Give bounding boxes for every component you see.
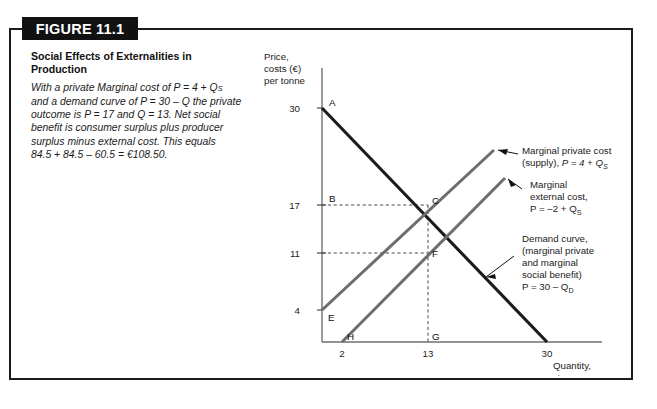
annotation-mpc-line1: Marginal private cost	[522, 145, 612, 156]
point-label-A: A	[329, 97, 336, 108]
y-tick-label-11: 11	[290, 248, 300, 259]
figure-caption-text: With a private Marginal cost of P = 4 + …	[31, 81, 246, 161]
point-label-H: H	[347, 331, 354, 342]
annotation-mpc-line2-eq: P = 4 + Q	[562, 157, 604, 168]
arrow-head-mec-icon	[508, 179, 516, 187]
arrow-head-mpc-icon	[498, 149, 508, 155]
demand-curve	[322, 108, 547, 342]
figure-number-label: FIGURE 11.1	[36, 21, 124, 37]
point-label-B: B	[329, 193, 336, 204]
caption-line-6: 84.5 + 84.5 – 60.5 = €108.50.	[31, 149, 167, 160]
y-axis-label-line2: costs (€)	[264, 63, 301, 74]
y-tick-label-30: 30	[289, 103, 300, 114]
annotation-demand-line5: P = 30 – QD	[522, 281, 574, 295]
annotation-mpc-line2-pre: (supply),	[522, 157, 562, 168]
point-label-C: C	[432, 195, 439, 206]
y-tick-label-17: 17	[289, 200, 300, 211]
marginal-private-cost-curve	[322, 150, 494, 310]
point-label-G: G	[432, 331, 440, 342]
y-axis-label-line1: Price,	[264, 51, 289, 62]
x-axis-label-line2: tonnes	[557, 372, 586, 376]
annotation-demand-line2: (marginal private	[522, 245, 594, 256]
annotation-demand-line3: and marginal	[522, 257, 578, 268]
caption-line-3: outcome is P = 17 and Q = 13. Net social	[31, 109, 220, 120]
annotation-mec-line1: Marginal	[530, 179, 567, 190]
annotation-demand-line1: Demand curve,	[522, 233, 588, 244]
annotation-demand-line4: social benefit)	[522, 269, 582, 280]
externality-chart: Price, costs (€) per tonne 30 17 11 4 2 …	[250, 36, 634, 376]
marginal-external-cost-curve	[342, 178, 505, 342]
x-tick-label-13: 13	[423, 348, 434, 359]
caption-line-2: and a demand curve of P = 30 – Q the pri…	[31, 96, 241, 107]
figure-caption: Social Effects of Externalities in Produ…	[31, 50, 246, 161]
annotation-mec-line3-eq: P = –2 + Q	[530, 203, 577, 214]
point-label-F: F	[432, 248, 438, 259]
annotation-mec-line3-sub: S	[577, 208, 582, 217]
y-axis-label-line3: per tonne	[264, 75, 305, 86]
annotation-demand-line5-sub: D	[568, 286, 573, 295]
x-axis-label-line1: Quantity,	[553, 360, 591, 371]
annotation-mpc-line2: (supply), P = 4 + QS	[522, 157, 608, 171]
leader-line-demand	[486, 256, 514, 277]
caption-line-1: With a private Marginal cost of P = 4 + …	[31, 82, 218, 93]
figure-banner: FIGURE 11.1	[22, 17, 138, 40]
point-label-E: E	[328, 312, 335, 323]
caption-line-5: surplus minus external cost. This equals	[31, 136, 216, 147]
annotation-demand-line5-eq: P = 30 – Q	[522, 281, 569, 292]
annotation-mec-line3: P = –2 + QS	[530, 203, 582, 217]
x-tick-label-2: 2	[339, 348, 344, 359]
annotation-mec-line2: external cost,	[530, 191, 588, 202]
y-tick-label-4: 4	[295, 305, 301, 316]
figure-title: Social Effects of Externalities in Produ…	[31, 50, 246, 77]
caption-line-4: benefit is consumer surplus plus produce…	[31, 122, 223, 133]
annotation-mpc-line2-sub: S	[603, 162, 608, 171]
x-tick-label-30: 30	[542, 348, 553, 359]
